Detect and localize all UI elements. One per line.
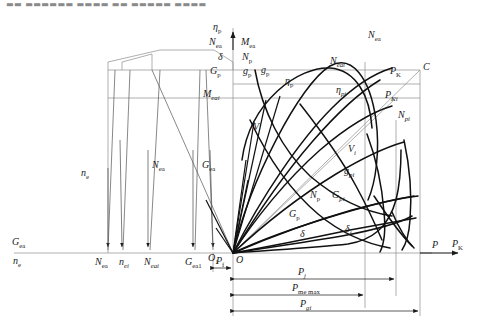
curve-label-P-K: PK: [390, 66, 401, 79]
curve-V-path: [233, 80, 380, 253]
axis-label-g-p: gp: [243, 66, 251, 79]
curve-label-g-pi: gpi: [344, 166, 354, 179]
fan-6-left: [206, 200, 233, 253]
axis-label-N-ea: Nea: [209, 37, 222, 50]
curve-Neai-path: [233, 68, 392, 253]
curve-label-N-pi: Npi: [398, 110, 410, 123]
grid-and-frame: [14, 28, 432, 316]
dim-label-P-j: Pj: [298, 267, 306, 280]
poly-top-slant-b: [214, 50, 233, 62]
axis-label-delta: δ: [218, 52, 223, 62]
curve-eta-pi-path: [300, 104, 382, 240]
dropline-nei: [120, 140, 122, 247]
curve-label-N-p: Np: [310, 190, 320, 203]
curve-label-G-ea: Gea: [202, 160, 215, 173]
axis-label-N-p: Np: [242, 52, 252, 65]
fan-4: [233, 96, 280, 253]
fan-7-left: [216, 228, 233, 253]
proj-line-1: [108, 70, 115, 250]
diagram-canvas: ▬▬ ▬▬▬▬▬▬ ▬▬▬▬ ▬▬ ▬▬▬▬▬ ▬▬▬▬▬ ▬ ▬▬ ▬▬ ▬▬…: [0, 0, 480, 332]
curve-label-P-Ki: PKi: [385, 90, 398, 103]
curve-label-N-ea: Nea: [152, 160, 165, 173]
axis-label-n-e-left: ne: [13, 256, 21, 269]
curve-label-M-eai: Meai: [203, 89, 220, 102]
tick-label-n-ei: nei: [119, 257, 129, 270]
curve-label-n-e: ne: [81, 168, 89, 181]
curve-label-N-eai: Neai: [330, 56, 345, 69]
tick-label-N-eai: Neai: [144, 257, 159, 270]
proj-line-2: [123, 70, 130, 250]
curve-label-g-p: gp: [261, 65, 269, 78]
curve-label-G-p: Gp: [289, 209, 300, 222]
axis-label-P-K: PK: [452, 239, 463, 252]
curve-label-N-ea-top: Nea: [368, 30, 381, 43]
tick-label-P-f: Pf: [216, 256, 224, 269]
tick-label-N-ea: Nea: [95, 257, 108, 270]
dim-label-P-me-max: Pme max: [292, 283, 320, 296]
curve-label-eta-pi: ηpi: [336, 85, 346, 98]
curve-label-delta: δ: [300, 229, 305, 239]
curve-label-C: C: [423, 62, 430, 72]
tick-label-O: O: [236, 255, 243, 265]
origin-fan-lines: [206, 96, 280, 253]
proj-line-4: [195, 70, 200, 250]
curve-label-delta-i: δi: [345, 224, 352, 237]
curve-Npi-path: [367, 134, 385, 252]
diagram-svg: [0, 0, 480, 332]
curve-label-V-i: Vi: [348, 144, 356, 157]
axis-label-eta-p: ηp: [213, 22, 221, 35]
curve-label-eta-p: ηp: [285, 76, 293, 89]
axis-label-M-ea: Mea: [241, 37, 255, 50]
tick-label-G-ea1: Gea1: [185, 257, 202, 270]
curve-label-G-pi: Gpi: [332, 190, 345, 203]
axis-label-G-ea-left: Gea: [12, 237, 25, 250]
curve-label-V: V: [253, 122, 259, 132]
axis-label-P: P: [432, 240, 438, 250]
dim-label-P-gi: Pgi: [300, 299, 311, 312]
axis-label-G-p: Gp: [210, 66, 221, 79]
